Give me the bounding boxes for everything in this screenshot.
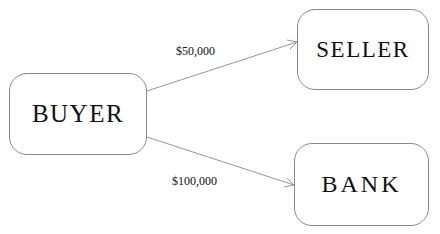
- node-bank: BANK: [294, 143, 429, 226]
- node-buyer: BUYER: [9, 73, 147, 155]
- node-seller-label: SELLER: [316, 37, 409, 63]
- node-seller: SELLER: [297, 9, 429, 90]
- edge-label-bank-amount: $100,000: [172, 174, 217, 189]
- edge-label-seller-amount: $50,000: [176, 44, 215, 59]
- node-buyer-label: BUYER: [32, 100, 124, 128]
- node-bank-label: BANK: [321, 171, 401, 198]
- edge-buyer-to-bank: [147, 137, 294, 187]
- edge-buyer-to-seller: [147, 40, 297, 91]
